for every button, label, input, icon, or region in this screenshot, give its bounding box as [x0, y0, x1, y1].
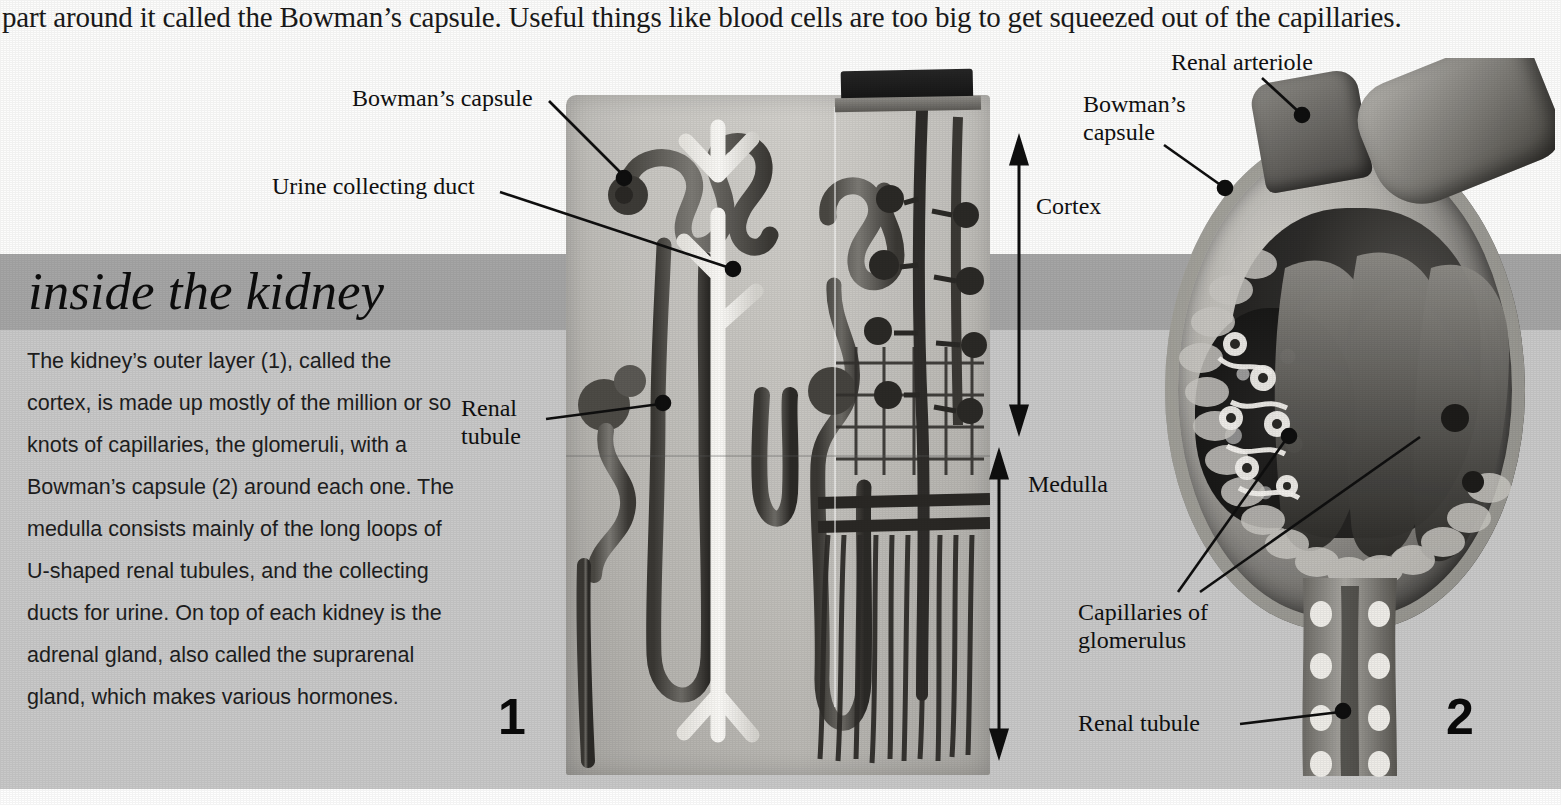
figure1-kidney-section-photo — [566, 95, 990, 775]
figure1-model-detail — [566, 95, 990, 775]
figure1-number: 1 — [498, 688, 526, 746]
intro-paragraph: part around it called the Bowman’s capsu… — [2, 0, 1558, 36]
label-capillaries-of-glomerulus: Capillaries of glomerulus — [1078, 598, 1208, 654]
label-medulla: Medulla — [1028, 470, 1108, 498]
label-renal-tubule-fig1: Renal tubule — [461, 394, 521, 450]
label-bowmans-capsule-fig2: Bowman’s capsule — [1083, 90, 1186, 146]
page-root: part around it called the Bowman’s capsu… — [0, 0, 1561, 805]
label-renal-arteriole: Renal arteriole — [1171, 48, 1313, 76]
page-title: inside the kidney — [28, 258, 384, 324]
figure1-model-top-rim — [835, 96, 981, 113]
body-paragraph: The kidney’s outer layer (1), called the… — [27, 340, 457, 718]
body-paragraph-text: The kidney’s outer layer (1), called the… — [27, 340, 457, 718]
figure2-number: 2 — [1446, 688, 1474, 746]
background-band-white-bottom — [0, 789, 1561, 805]
figure2-model-detail — [1135, 58, 1555, 784]
label-urine-collecting-duct: Urine collecting duct — [272, 172, 475, 200]
figure2-glomerulus-photo — [1135, 58, 1555, 784]
label-cortex: Cortex — [1036, 192, 1101, 220]
label-bowmans-capsule-fig1: Bowman’s capsule — [352, 84, 533, 112]
label-renal-tubule-fig2: Renal tubule — [1078, 709, 1200, 737]
